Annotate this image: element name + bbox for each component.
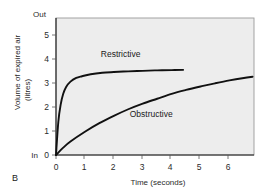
y-tick-label-1: 1 [44, 126, 49, 136]
y-tick-label-2: 2 [44, 102, 49, 112]
y-axis-title-line2: (litres) [23, 78, 32, 101]
x-tick-label-6: 6 [226, 162, 231, 172]
plot-area-background [56, 18, 254, 155]
x-tick-label-4: 4 [168, 162, 173, 172]
x-tick-label-1: 1 [82, 162, 87, 172]
panel-label: B [12, 173, 18, 183]
y-axis-title-line1: Volume of expired air [13, 35, 22, 110]
x-axis-title: Time (seconds) [131, 178, 186, 187]
x-tick-label-5: 5 [197, 162, 202, 172]
obstructive-curve-label: Obstructive [130, 109, 173, 119]
x-axis-ticks: 0 1 2 3 4 5 6 [54, 155, 231, 172]
y-axis-in-label: In [31, 151, 38, 160]
y-axis-ticks: 0 1 2 3 4 5 [44, 30, 56, 160]
spirometry-chart: 0 1 2 3 4 5 Out In Volume of expired air… [0, 0, 265, 190]
y-tick-label-4: 4 [44, 54, 49, 64]
y-axis-out-label: Out [33, 10, 47, 19]
x-tick-label-3: 3 [140, 162, 145, 172]
y-tick-label-0: 0 [44, 150, 49, 160]
x-tick-label-0: 0 [54, 162, 59, 172]
y-tick-label-3: 3 [44, 78, 49, 88]
y-tick-label-5: 5 [44, 30, 49, 40]
restrictive-curve-label: Restrictive [101, 49, 141, 59]
x-tick-label-2: 2 [111, 162, 116, 172]
